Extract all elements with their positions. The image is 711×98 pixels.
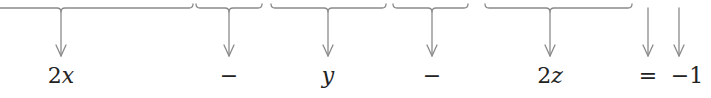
term-2x: 2x: [48, 63, 74, 89]
term-y: y: [322, 63, 334, 89]
term-2z: 2z: [537, 63, 563, 89]
equation-diagram: 2x − y − 2z = −1: [0, 0, 711, 98]
minus-operator-2: −: [423, 63, 441, 89]
equals: =: [639, 63, 657, 88]
constant-negative-one: −1: [671, 63, 703, 89]
constant: −1: [671, 63, 703, 88]
braces-and-arrows: [0, 0, 711, 98]
brace-icon: [393, 4, 468, 12]
brace-icon: [485, 4, 632, 12]
variable-x: x: [62, 63, 74, 88]
brace-icon: [196, 4, 262, 12]
coefficient: 2: [537, 63, 551, 88]
minus-sign: −: [220, 63, 238, 88]
minus-sign: −: [423, 63, 441, 88]
minus-operator-1: −: [220, 63, 238, 89]
variable-y: y: [322, 63, 334, 88]
equals-sign: =: [639, 63, 657, 89]
brace-icon: [0, 4, 193, 12]
coefficient: 2: [48, 63, 62, 88]
brace-icon: [271, 4, 386, 12]
variable-z: z: [551, 63, 563, 88]
